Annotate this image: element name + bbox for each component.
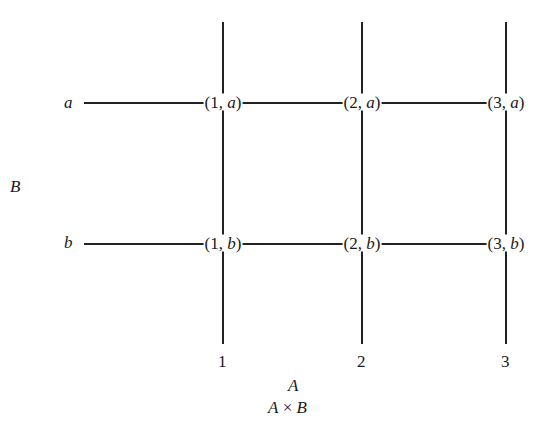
column-line-3 xyxy=(505,22,507,344)
column-line-1 xyxy=(222,22,224,344)
row-label-a: a xyxy=(64,94,73,111)
set-b-label: B xyxy=(10,178,20,195)
row-line-a xyxy=(84,102,506,104)
node-2-a: (2, a) xyxy=(343,94,382,111)
product-label: A × B xyxy=(268,399,307,416)
cartesian-product-diagram: a b B (1, a) (2, a) (3, a) (1, b) (2, b)… xyxy=(0,0,545,433)
node-3-b: (3, b) xyxy=(487,235,526,252)
column-label-2: 2 xyxy=(357,353,366,370)
node-3-a: (3, a) xyxy=(487,94,526,111)
row-label-b: b xyxy=(64,234,73,251)
node-1-a: (1, a) xyxy=(204,94,243,111)
node-1-b: (1, b) xyxy=(204,235,243,252)
row-line-b xyxy=(84,243,506,245)
column-line-2 xyxy=(361,22,363,344)
column-label-3: 3 xyxy=(501,353,510,370)
node-2-b: (2, b) xyxy=(343,235,382,252)
column-label-1: 1 xyxy=(218,353,227,370)
set-a-label: A xyxy=(288,377,298,394)
